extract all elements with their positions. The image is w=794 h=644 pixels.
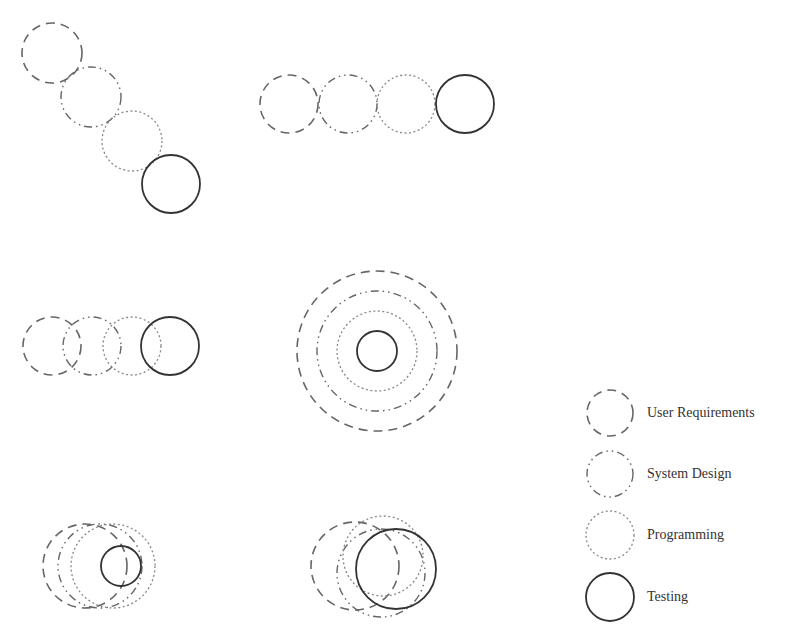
user-requirements-circle bbox=[311, 522, 399, 610]
system-design-circle bbox=[319, 75, 377, 133]
programming-circle bbox=[337, 311, 417, 391]
legend-label-testing: Testing bbox=[647, 589, 688, 605]
system-design-circle bbox=[317, 291, 437, 411]
system-design-circle bbox=[337, 529, 425, 617]
legend-label-user-requirements: User Requirements bbox=[647, 405, 755, 421]
legend-swatch-testing bbox=[586, 573, 634, 621]
user-requirements-circle bbox=[260, 75, 318, 133]
user-requirements-circle bbox=[22, 23, 82, 83]
diagram-overlapping-sequence bbox=[23, 317, 199, 375]
user-requirements-circle bbox=[43, 524, 127, 608]
testing-circle bbox=[141, 317, 199, 375]
testing-circle bbox=[101, 546, 141, 586]
legend-swatch-user-requirements bbox=[587, 390, 633, 436]
diagram-nested-shifted bbox=[43, 524, 155, 608]
legend-swatch-system-design bbox=[587, 451, 633, 497]
diagram-canvas: User Requirements System Design Programm… bbox=[0, 0, 794, 644]
legend bbox=[586, 390, 634, 621]
diagram-heavily-overlapping bbox=[311, 516, 436, 617]
testing-circle bbox=[356, 529, 436, 609]
programming-circle bbox=[343, 516, 423, 596]
user-requirements-circle bbox=[23, 317, 81, 375]
programming-circle bbox=[377, 75, 435, 133]
diagram-drawing bbox=[0, 0, 794, 644]
programming-circle bbox=[103, 317, 161, 375]
system-design-circle bbox=[61, 67, 121, 127]
legend-label-programming: Programming bbox=[647, 527, 724, 543]
legend-swatch-programming bbox=[586, 511, 634, 559]
diagram-concentric bbox=[297, 271, 457, 431]
diagram-diagonal-sequence bbox=[22, 23, 200, 213]
legend-label-system-design: System Design bbox=[647, 466, 731, 482]
testing-circle bbox=[357, 331, 397, 371]
testing-circle bbox=[142, 155, 200, 213]
testing-circle bbox=[436, 75, 494, 133]
diagram-horizontal-sequence bbox=[260, 75, 494, 133]
user-requirements-circle bbox=[297, 271, 457, 431]
